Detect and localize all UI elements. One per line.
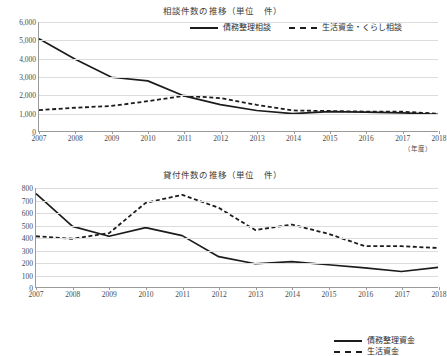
x-axis-tick-label: 2018 [432,290,447,299]
y-axis-tick-label: 500 [22,221,33,230]
x-axis-tick-label: 2018 [432,134,447,143]
x-axis-tick-label: 2009 [102,290,117,299]
chart-title-top: 相談件数の推移（単位 件） [0,4,445,16]
legend-item-living-fund[interactable]: 生活資金 [334,348,399,356]
chart-title-bottom: 貸付件数の推移（単位 件） [0,168,445,180]
x-axis-tick-label: 2011 [177,134,192,143]
y-axis-tick-label: 100 [22,271,33,280]
gridline [36,201,438,202]
x-axis-tick-label: 2015 [322,290,337,299]
y-axis-tick-label: 6,000 [19,18,36,27]
x-axis-tick-label: 2012 [213,134,228,143]
legend-line-dashed-icon [289,27,317,29]
x-axis-tick-label: 2016 [359,134,374,143]
gridline [39,77,438,78]
gridline [36,226,438,227]
x-axis-tick-label: 2014 [285,290,300,299]
y-axis-tick-label: 800 [22,184,33,193]
y-axis-tick-label: 2,000 [19,91,36,100]
gridline [39,40,438,41]
gridline [39,114,438,115]
x-axis-tick-label: 2017 [395,290,410,299]
legend-line-solid-icon [190,27,218,29]
x-axis-tick-label: 2007 [29,290,44,299]
consultation-count-chart: 相談件数の推移（単位 件） 01,0002,0003,0004,0005,000… [0,0,445,155]
plot-area-bottom: 0100200300400500600700800200720082009201… [35,188,438,288]
legend-bottom: 債務整理資金 生活資金 [334,337,415,356]
gridline [36,213,438,214]
x-axis-tick-label: 2010 [141,134,156,143]
legend-item-debt-consultation[interactable]: 債務整理相談 [190,24,271,32]
series-line [36,195,438,248]
legend-top: 債務整理相談 生活資金・くらし相談 [190,24,402,32]
x-axis-tick-label: 2008 [65,290,80,299]
x-axis-tick-label: 2016 [358,290,373,299]
x-axis-tick-label: 2013 [250,134,265,143]
gridline [36,263,438,264]
loan-count-chart: 貸付件数の推移（単位 件） 01002003004005006007008002… [0,155,445,307]
x-axis-tick-label: 2008 [68,134,83,143]
x-axis-tick-label: 2011 [175,290,190,299]
y-axis-tick-label: 200 [22,259,33,268]
x-axis-tick-label: 2012 [212,290,227,299]
x-axis-tick-label: 2013 [248,290,263,299]
series-line [36,194,438,272]
y-axis-tick-label: 400 [22,234,33,243]
x-axis-tick-label: 2007 [32,134,47,143]
legend-label-text: 債務整理相談 [223,24,271,32]
x-axis-tick-label: 2010 [138,290,153,299]
legend-item-living-fund-consultation[interactable]: 生活資金・くらし相談 [289,24,402,32]
plot-area-top: 01,0002,0003,0004,0005,0006,000200720082… [38,22,438,132]
x-axis-unit-label-top: （年度） [404,143,432,153]
x-axis-tick-label: 2015 [322,134,337,143]
gridline [36,188,438,189]
legend-line-dashed-icon [334,351,362,353]
y-axis-tick-label: 5,000 [19,36,36,45]
y-axis-tick-label: 1,000 [19,109,36,118]
x-axis-tick-label: 2009 [104,134,119,143]
legend-item-debt-fund[interactable]: 債務整理資金 [334,337,415,345]
series-line [39,96,438,114]
legend-label-text: 生活資金 [367,348,399,356]
y-axis-tick-label: 300 [22,246,33,255]
y-axis-tick-label: 600 [22,209,33,218]
legend-label-text: 生活資金・くらし相談 [322,24,402,32]
y-axis-tick-label: 3,000 [19,73,36,82]
legend-label-text: 債務整理資金 [367,337,415,345]
gridline [36,251,438,252]
y-axis-tick-label: 700 [22,196,33,205]
legend-line-solid-icon [334,340,362,342]
y-axis-tick-label: 4,000 [19,54,36,63]
gridline [39,59,438,60]
gridline [36,276,438,277]
x-axis-tick-label: 2014 [286,134,301,143]
x-axis-tick-label: 2017 [395,134,410,143]
gridline [39,95,438,96]
gridline [36,238,438,239]
